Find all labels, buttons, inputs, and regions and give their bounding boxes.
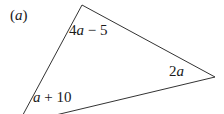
part-label: (a) [10,8,28,23]
side-label-upper-left: 4a − 5 [69,23,107,38]
figure-container: (a) 4a − 5 2a a + 10 [0,0,224,114]
side-label-right: 2a [169,64,184,79]
side-label-bottom: a + 10 [33,90,71,105]
